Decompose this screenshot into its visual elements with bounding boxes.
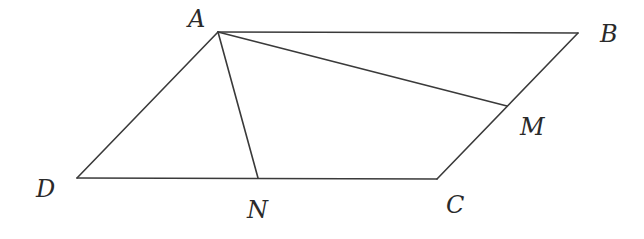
segments-group bbox=[77, 32, 578, 179]
labels-group: A B C D M N bbox=[35, 5, 618, 224]
segment-da bbox=[77, 32, 218, 178]
parallelogram-figure: A B C D M N bbox=[0, 0, 644, 239]
segment-an bbox=[218, 32, 258, 178]
vertex-label-a: A bbox=[186, 5, 205, 33]
vertex-label-c: C bbox=[446, 191, 464, 219]
vertex-label-d: D bbox=[35, 175, 55, 203]
segment-am bbox=[218, 32, 507, 106]
vertex-label-b: B bbox=[599, 20, 618, 48]
point-label-m: M bbox=[519, 113, 546, 141]
segment-ab bbox=[218, 32, 578, 33]
segment-cd bbox=[77, 178, 437, 179]
point-label-n: N bbox=[246, 196, 269, 224]
geometry-diagram: A B C D M N bbox=[0, 0, 644, 239]
